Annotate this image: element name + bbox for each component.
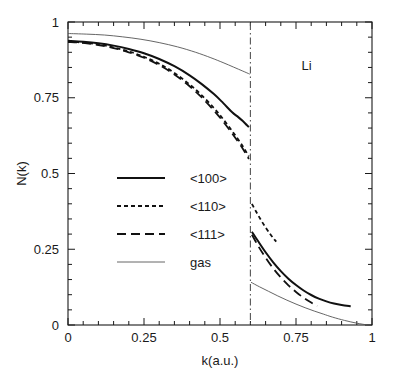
x-axis-title: k(a.u.) [202,353,239,368]
legend-item-label: <110> [190,199,226,214]
annotation-label: Li [302,58,312,73]
scatter-plot-canvas: 00.250.50.75100.250.50.751k(a.u.)N(k)Li<… [0,0,408,376]
legend-item: <110> [117,199,226,214]
data-series-line [68,41,249,127]
x-axis-tick-label: 0.25 [131,330,156,345]
x-axis-tick-label: 0.75 [283,330,308,345]
legend-item-label: gas [190,255,211,270]
legend-item: <100> [117,171,227,186]
data-series-line [68,34,250,75]
y-axis-tick-label: 0 [52,318,59,333]
x-axis-tick-label: 0 [64,330,71,345]
y-axis-title: N(k) [14,161,29,186]
legend-item: gas [117,255,211,270]
y-axis-tick-label: 0.25 [34,242,59,257]
legend-item-label: <111> [190,227,225,242]
figure-container: 00.250.50.75100.250.50.751k(a.u.)N(k)Li<… [0,0,408,376]
x-axis-tick-label: 1 [368,330,375,345]
y-axis-tick-label: 0.5 [41,166,59,181]
legend: <100><110><111>gas [117,171,227,270]
y-axis-tick-label: 0.75 [34,90,59,105]
x-axis-tick-label: 0.5 [211,330,229,345]
data-series-line [251,282,367,325]
legend-item-label: <100> [190,171,227,186]
y-axis-tick-label: 1 [52,15,59,30]
legend-item: <111> [117,227,225,242]
